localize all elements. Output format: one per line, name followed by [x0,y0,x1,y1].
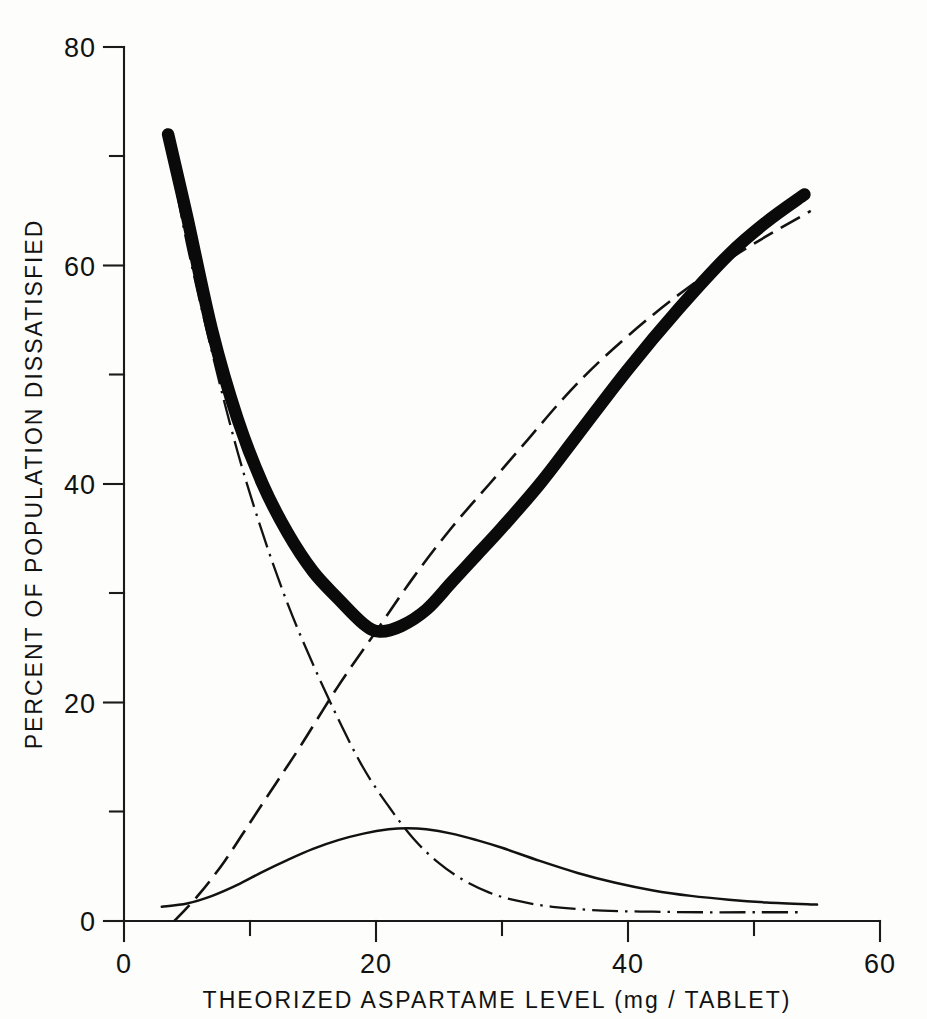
x-tick-label-20: 20 [360,949,392,979]
y-tick-label-80: 80 [64,33,96,63]
y-tick-label-0: 0 [80,907,96,937]
series-total-dissatisfied [168,134,804,631]
x-axis-title: THEORIZED ASPARTAME LEVEL (mg / TABLET) [203,987,792,1013]
x-tick-label-40: 40 [612,949,644,979]
series-difference-component [162,828,817,907]
y-tick-label-60: 60 [64,252,96,282]
axis-group [104,47,880,941]
chart-figure: 80 60 40 20 0 0 20 40 60 THEORIZED ASPAR… [0,0,927,1019]
data-series-group [162,134,817,921]
y-tick-labels: 80 60 40 20 0 [64,33,96,937]
y-axis-title: PERCENT OF POPULATION DISSATISFIED [21,219,47,750]
chart-plot-area: 80 60 40 20 0 0 20 40 60 THEORIZED ASPAR… [0,0,927,1019]
y-tick-label-20: 20 [64,689,96,719]
x-tick-labels: 0 20 40 60 [116,949,896,979]
x-tick-label-0: 0 [116,949,132,979]
y-tick-label-40: 40 [64,470,96,500]
series-too-little-aspartame [169,151,804,913]
series-too-much-aspartame [174,211,810,921]
x-tick-label-60: 60 [864,949,896,979]
